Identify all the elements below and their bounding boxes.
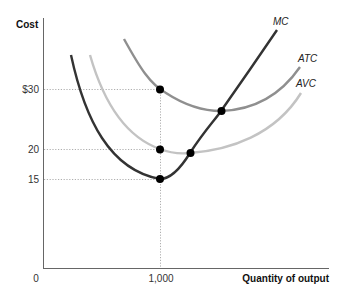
marked-points xyxy=(156,86,226,184)
mc-label: MC xyxy=(273,16,289,27)
avc-label: AVC xyxy=(295,78,317,89)
x-tick-1000: 1,000 xyxy=(148,273,173,284)
origin-label: 0 xyxy=(33,273,39,284)
atc-label: ATC xyxy=(297,53,318,64)
y-tick-20: 20 xyxy=(28,144,40,155)
cost-curves-chart: Cost Quantity of output $30 20 15 0 1,00… xyxy=(0,0,343,299)
mc-curve xyxy=(71,30,277,179)
point-avc-1000 xyxy=(156,146,164,154)
point-atc-1000 xyxy=(156,86,164,94)
y-axis-title: Cost xyxy=(16,19,39,30)
avc-curve xyxy=(90,55,301,153)
y-tick-15: 15 xyxy=(28,174,40,185)
atc-curve xyxy=(124,39,300,111)
reference-lines xyxy=(44,89,161,268)
point-mc-atc-intersection xyxy=(218,107,226,115)
x-axis-title: Quantity of output xyxy=(242,273,329,284)
point-mc-avc-intersection xyxy=(187,149,195,157)
y-tick-30: $30 xyxy=(22,84,39,95)
point-mc-min xyxy=(156,175,164,183)
